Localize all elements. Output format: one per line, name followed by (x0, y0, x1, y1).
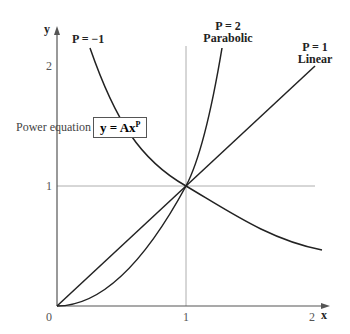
y-axis-label: y (44, 23, 50, 35)
label-p2: P = 2 Parabolic (198, 20, 258, 44)
x-tick-2: 2 (309, 310, 315, 325)
x-axis-label: x (321, 309, 327, 321)
y-tick-2: 2 (46, 59, 52, 74)
origin-label: 0 (46, 310, 52, 325)
power-equation-label: Power equation (16, 121, 91, 133)
label-p2-name: Parabolic (198, 32, 258, 44)
formula-exponent: P (136, 120, 141, 129)
label-p1: P = 1 Linear (290, 41, 340, 65)
y-axis-arrow-icon (54, 26, 60, 35)
curve-parabolic (57, 48, 222, 306)
formula-text: y = Ax (100, 120, 136, 135)
label-p1-name: Linear (290, 53, 340, 65)
x-tick-1: 1 (183, 310, 189, 325)
y-tick-1: 1 (46, 179, 52, 194)
curve-inverse (90, 48, 322, 250)
formula-box: y = AxP (93, 117, 147, 138)
label-p-neg1: P = −1 (72, 33, 104, 45)
